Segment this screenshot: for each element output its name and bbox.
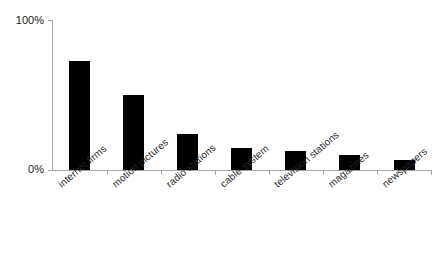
plot-area bbox=[0, 0, 444, 259]
bar-chart: 100% 0% internet firmsmotion picturesrad… bbox=[0, 0, 444, 259]
